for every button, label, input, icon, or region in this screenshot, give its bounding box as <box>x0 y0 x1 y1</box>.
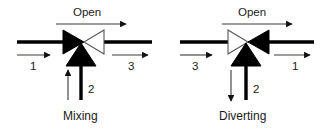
diverting-caption: Diverting <box>219 110 266 122</box>
valve-right-triangle-outlined <box>84 30 104 54</box>
diverting-port-3-label: 3 <box>192 61 198 73</box>
mixing-port-2-label: 2 <box>88 84 94 96</box>
mixing-port-3-label: 3 <box>128 61 134 73</box>
diverting-port-1-label: 1 <box>292 61 298 73</box>
mixing-port-1-label: 1 <box>30 61 36 73</box>
diverting-open-label: Open <box>238 7 266 19</box>
diverting-port-2-label: 2 <box>253 84 259 96</box>
mixing-caption: Mixing <box>63 110 98 122</box>
valve-diagram-canvas <box>0 0 332 137</box>
mixing-open-label: Open <box>73 7 101 19</box>
